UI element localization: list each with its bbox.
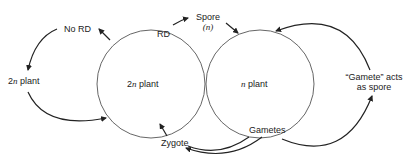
gametes-label: Gametes [249,125,286,135]
zygote-label: Zygote [161,138,189,148]
haploid-suffix: plant [246,79,268,89]
gamete-spore-line2: as spore [340,82,408,92]
haploid-plant-label: n plant [241,79,268,89]
diploid-plant-label: 2n plant [127,79,159,89]
outer-plant-suffix: plant [18,76,40,86]
spore-label: Spore (n) [192,12,224,32]
arrow-gametes-to-gamete-spore [282,96,372,146]
no-rd-label: No RD [64,24,91,34]
rd-label: RD [157,29,170,39]
arrow-to-no-rd [99,29,110,40]
spore-ploidy: (n) [192,22,224,32]
arrow-gametes-to-zygote-1 [188,137,249,150]
gamete-spore-line1: “Gamete” acts [340,72,408,82]
arrow-gamete-spore-to-haploid-circle [276,24,370,70]
arrow-zygote-to-diploid-circle [160,124,167,136]
life-cycle-diagram: No RD RD Spore (n) 2n plant 2n plant n p… [0,0,410,164]
arrow-spore-to-haploid-circle [226,23,238,33]
arrow-no-rd-to-outer-plant [28,29,57,70]
spore-text: Spore [192,12,224,22]
diploid-suffix: plant [137,79,159,89]
gamete-acts-as-spore-label: “Gamete” acts as spore [340,72,408,92]
arrow-outer-plant-to-circle [28,92,106,121]
outer-diploid-plant-label: 2n plant [8,76,40,86]
arrow-rd-to-spore [173,18,188,25]
arrow-gametes-to-zygote-2 [186,137,262,153]
